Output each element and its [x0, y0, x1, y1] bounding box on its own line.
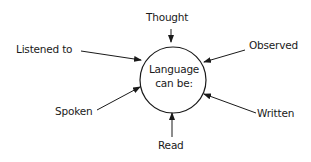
label-written: Written [257, 108, 294, 119]
arrow-observed [204, 50, 245, 62]
label-thought: Thought [146, 12, 188, 23]
label-listened-to: Listened to [16, 44, 72, 55]
center-label-line1: Language [141, 62, 207, 76]
label-spoken: Spoken [55, 106, 92, 117]
arrow-spoken [97, 87, 140, 110]
language-diagram: Language can be: Thought Observed Writte… [0, 0, 311, 162]
arrow-listened-to [81, 51, 141, 60]
center-label: Language can be: [141, 62, 207, 90]
label-observed: Observed [249, 40, 298, 51]
center-label-line2: can be: [141, 76, 207, 90]
label-read: Read [158, 140, 184, 151]
arrow-written [204, 94, 256, 113]
